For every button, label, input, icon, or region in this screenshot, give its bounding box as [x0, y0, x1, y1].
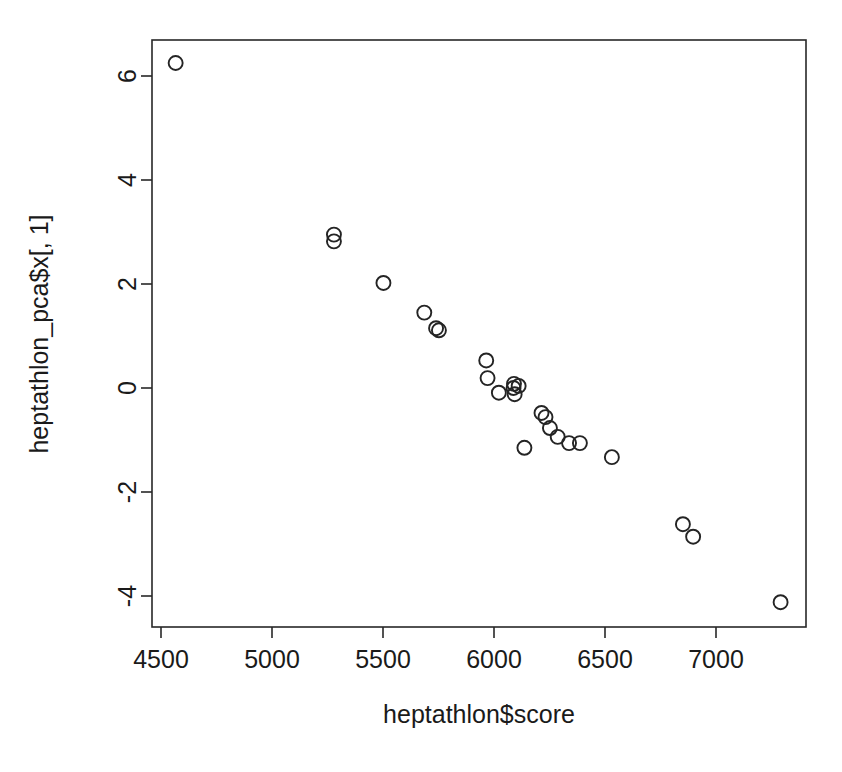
data-point — [417, 306, 431, 320]
data-point — [376, 276, 390, 290]
data-point-series — [169, 56, 788, 609]
y-tick-label: 6 — [113, 69, 141, 83]
data-point — [676, 517, 690, 531]
x-tick-label: 5500 — [355, 645, 411, 673]
x-axis-title: heptathlon$score — [383, 700, 575, 728]
x-tick-label: 5000 — [244, 645, 300, 673]
data-point — [535, 406, 549, 420]
data-point — [573, 436, 587, 450]
data-point — [169, 56, 183, 70]
data-point — [481, 371, 495, 385]
data-point — [517, 441, 531, 455]
y-tick-label: -2 — [113, 481, 141, 503]
y-tick-label: -4 — [113, 585, 141, 607]
plot-frame-box — [152, 40, 806, 627]
scatter-plot-figure: 450050005500600065007000 6420-2-4 heptat… — [0, 0, 842, 772]
data-point — [512, 379, 526, 393]
data-point — [479, 353, 493, 367]
data-point — [605, 450, 619, 464]
plot-canvas: 450050005500600065007000 6420-2-4 heptat… — [0, 0, 842, 772]
y-axis: 6420-2-4 — [113, 69, 152, 607]
x-tick-label: 7000 — [688, 645, 744, 673]
y-tick-label: 0 — [113, 381, 141, 395]
data-point — [774, 595, 788, 609]
x-tick-label: 6000 — [466, 645, 522, 673]
y-tick-label: 4 — [113, 173, 141, 187]
y-axis-title: heptathlon_pca$x[, 1] — [25, 214, 53, 453]
data-point — [686, 530, 700, 544]
data-point — [492, 386, 506, 400]
x-tick-label: 4500 — [133, 645, 189, 673]
x-axis: 450050005500600065007000 — [133, 627, 744, 673]
y-tick-label: 2 — [113, 277, 141, 291]
x-tick-label: 6500 — [577, 645, 633, 673]
